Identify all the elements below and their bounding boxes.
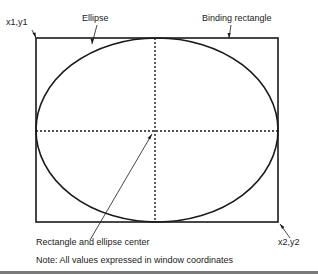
label-binding-rectangle: Binding rectangle bbox=[202, 14, 272, 23]
arrowhead-center-icon bbox=[148, 134, 153, 140]
arrowhead-ellipse-icon bbox=[91, 39, 94, 45]
ellipse-diagram bbox=[0, 0, 318, 274]
label-x1y1: x1,y1 bbox=[6, 18, 28, 27]
label-x2y2: x2,y2 bbox=[278, 238, 300, 247]
binding-rectangle bbox=[36, 38, 278, 222]
label-center: Rectangle and ellipse center bbox=[36, 238, 150, 247]
ellipse-shape bbox=[36, 38, 278, 222]
arrowhead-x1y1-icon bbox=[33, 33, 37, 39]
arrowhead-x2y2-icon bbox=[280, 224, 285, 229]
label-note: Note: All values expressed in window coo… bbox=[36, 256, 233, 265]
label-ellipse: Ellipse bbox=[82, 14, 109, 23]
leader-center bbox=[90, 134, 152, 240]
